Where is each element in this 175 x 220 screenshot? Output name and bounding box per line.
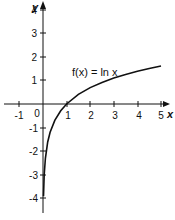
ln-graph: -1 1 2 3 4 5 0 4 3 2 1 -1 -2 -3 -4 y x f… xyxy=(0,0,175,220)
x-tick-label: -1 xyxy=(15,110,24,121)
x-tick-label: 5 xyxy=(158,110,164,121)
x-tick-label: 3 xyxy=(112,110,118,121)
x-tick-label: 1 xyxy=(65,110,71,121)
origin-label: 0 xyxy=(34,108,40,119)
y-tick-label: 3 xyxy=(31,28,37,39)
x-axis-arrow-icon xyxy=(163,101,170,107)
y-tick-label: 1 xyxy=(31,75,37,86)
y-tick-label: -1 xyxy=(29,123,38,134)
y-tick-label: -2 xyxy=(29,146,38,157)
y-tick-label: -3 xyxy=(29,170,38,181)
y-tick-label: 2 xyxy=(31,52,37,63)
y-axis-arrow-icon xyxy=(40,1,46,9)
function-label: f(x) = ln x xyxy=(72,66,118,78)
y-tick-label: -4 xyxy=(29,193,38,204)
x-tick-label: 4 xyxy=(136,110,142,121)
ln-curve xyxy=(44,66,162,196)
x-axis-title: x xyxy=(166,108,174,120)
y-axis-title: y xyxy=(31,1,39,13)
x-tick-label: 2 xyxy=(88,110,94,121)
